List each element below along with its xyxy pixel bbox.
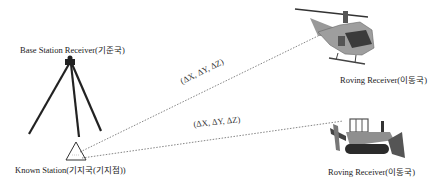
triangle-survey-marker-icon [66,142,86,160]
rover-bulldozer-label: Roving Receiver(이동국) [328,165,415,177]
bulldozer-icon [330,119,405,158]
helicopter-icon [295,9,374,64]
rover-helicopter-label: Roving Receiver(이동국) [340,73,427,85]
tripod-gnss-receiver-icon [29,56,101,138]
base-station-label: Base Station Receiver(기준국) [20,43,125,55]
diagram-canvas [0,0,434,187]
known-station-label: Known Station(기지국(기지점)) [15,163,126,175]
